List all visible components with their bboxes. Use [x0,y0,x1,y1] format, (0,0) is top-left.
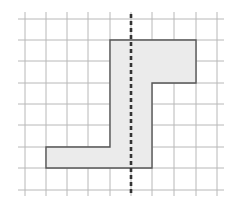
grid-diagram [0,0,235,204]
